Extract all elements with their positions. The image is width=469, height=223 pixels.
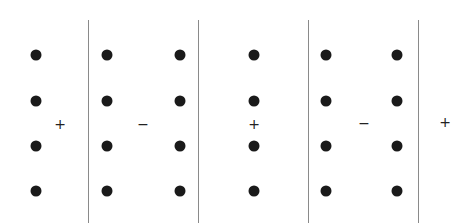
divider-line (308, 20, 309, 223)
diagram-canvas: +−+−+ (0, 0, 469, 223)
charge-dot (392, 50, 403, 61)
plus-sign: + (248, 117, 260, 131)
charge-dot (31, 186, 42, 197)
charge-dot (31, 50, 42, 61)
plus-sign: + (54, 117, 66, 131)
minus-sign: − (137, 117, 149, 131)
charge-dot (31, 96, 42, 107)
charge-dot (175, 50, 186, 61)
plus-sign: + (439, 115, 451, 129)
divider-line (88, 20, 89, 223)
charge-dot (31, 141, 42, 152)
charge-dot (392, 141, 403, 152)
charge-dot (175, 141, 186, 152)
charge-dot (102, 141, 113, 152)
charge-dot (249, 186, 260, 197)
charge-dot (102, 186, 113, 197)
charge-dot (175, 186, 186, 197)
charge-dot (321, 186, 332, 197)
charge-dot (102, 96, 113, 107)
charge-dot (175, 96, 186, 107)
divider-line (198, 20, 199, 223)
charge-dot (392, 96, 403, 107)
charge-dot (249, 141, 260, 152)
divider-line (418, 20, 419, 223)
minus-sign: − (358, 116, 370, 130)
charge-dot (392, 186, 403, 197)
charge-dot (321, 50, 332, 61)
charge-dot (249, 50, 260, 61)
charge-dot (249, 96, 260, 107)
charge-dot (102, 50, 113, 61)
charge-dot (321, 141, 332, 152)
charge-dot (321, 96, 332, 107)
